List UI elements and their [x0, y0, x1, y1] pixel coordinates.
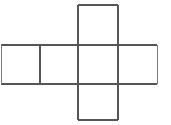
net-face-row-4: [118, 45, 157, 84]
net-face-bottom: [78, 84, 118, 120]
net-face-row-1: [1, 45, 40, 84]
cube-net-svg: Cube net diagram A net of a cube drawn a…: [0, 0, 171, 125]
net-face-row-3: [78, 45, 118, 84]
net-face-top: [78, 5, 118, 45]
net-face-row-2: [40, 45, 78, 84]
figure-canvas: Cube net diagram A net of a cube drawn a…: [0, 0, 171, 125]
